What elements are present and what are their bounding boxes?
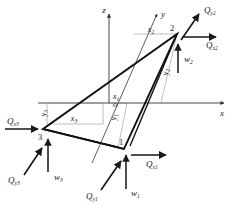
Qx1-sub: x1 bbox=[152, 164, 158, 170]
node-3-label: 3 bbox=[38, 132, 42, 142]
dimension-label-x3: x3 bbox=[70, 114, 78, 124]
triangle-element bbox=[43, 34, 177, 149]
dim-y3-sub: 3 bbox=[43, 110, 49, 114]
dim-x3-sub: 3 bbox=[73, 118, 77, 124]
Qy1-sub: y1 bbox=[92, 196, 98, 202]
x-axis-label: x bbox=[219, 108, 224, 118]
dimension-label-x2: x2 bbox=[147, 25, 155, 35]
force-label-Qx1: Qx1 bbox=[146, 159, 158, 170]
Qy3-sub: y3 bbox=[14, 180, 20, 186]
node-2-label: 2 bbox=[170, 23, 174, 33]
w1-sub: 1 bbox=[137, 193, 140, 199]
force-label-w1: w1 bbox=[131, 188, 140, 199]
figure-container: z y x o 2 3 1 bbox=[0, 0, 239, 205]
triangle-edges bbox=[43, 34, 177, 149]
dim-x1-sub: 1 bbox=[117, 96, 120, 102]
dimension-label-x1: x1 bbox=[112, 92, 120, 102]
Qx2-sub: x2 bbox=[212, 45, 218, 51]
y-axis-label: y bbox=[160, 9, 165, 19]
force-label-Qx2: Qx2 bbox=[206, 40, 218, 51]
force-arrow-Qy3 bbox=[24, 148, 42, 175]
z-axis-label: z bbox=[101, 5, 106, 15]
diagram-canvas: z y x o 2 3 1 bbox=[0, 0, 239, 205]
Qx3-sub: x3 bbox=[13, 121, 19, 127]
dim-y2-sub: 2 bbox=[165, 69, 171, 72]
force-arrow-Qy2 bbox=[181, 14, 199, 40]
node-1-label: 1 bbox=[119, 137, 123, 147]
force-arrows-node-1 bbox=[101, 155, 166, 190]
dimension-lines-group bbox=[47, 34, 177, 148]
w3-sub: 3 bbox=[59, 177, 63, 183]
force-label-Qy2: Qy2 bbox=[204, 5, 216, 16]
w2-sub: 2 bbox=[190, 59, 193, 65]
force-label-w2: w2 bbox=[184, 54, 193, 65]
inner-line-3-to-1c bbox=[43, 129, 118, 147]
force-label-Qx3: Qx3 bbox=[7, 116, 19, 127]
force-label-Qy1: Qy1 bbox=[86, 191, 98, 202]
dim-y1-sub: 1 bbox=[113, 114, 119, 117]
dimension-label-y1: y1 bbox=[109, 114, 119, 122]
dim-x2-sub: 2 bbox=[151, 29, 154, 35]
dimension-label-y3: y3 bbox=[39, 110, 49, 118]
force-label-Qy3: Qy3 bbox=[8, 175, 20, 186]
Qy2-sub: y2 bbox=[210, 10, 216, 16]
force-label-w3: w3 bbox=[54, 172, 63, 183]
force-arrow-Qy1 bbox=[101, 161, 121, 190]
